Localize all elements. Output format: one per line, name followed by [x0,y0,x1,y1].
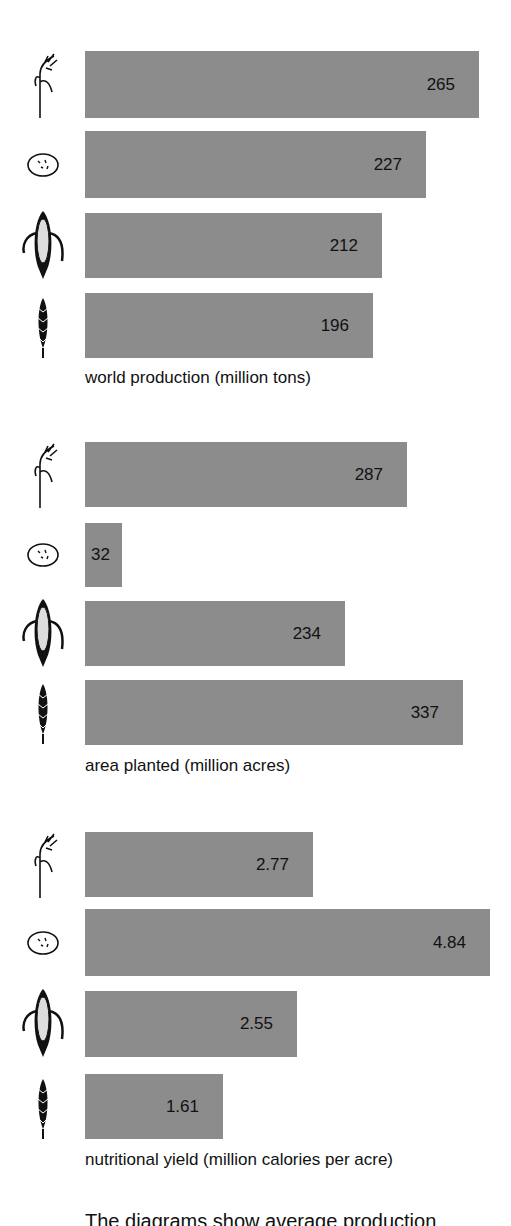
bar-maize: 2.55 [85,991,297,1057]
bar-oats: 265 [85,51,479,118]
bar-oats: 2.77 [85,832,313,897]
bar-wheat: 337 [85,680,463,745]
bar-value: 32 [91,545,110,565]
wheat-icon [18,1074,68,1141]
bar-value: 287 [355,465,383,485]
corn-icon [18,209,68,281]
potato-icon [18,131,68,198]
oat-icon [18,51,68,118]
bar-value: 2.77 [256,855,289,875]
wheat-icon [18,293,68,360]
chart-caption: world production (million tons) [85,368,311,388]
bar-potatoes: 227 [85,131,426,198]
bar-value: 196 [321,316,349,336]
bar-value: 227 [374,155,402,175]
bar-wheat: 196 [85,293,373,358]
bar-potatoes: 4.84 [85,909,490,976]
bar-wheat: 1.61 [85,1074,223,1139]
chart-caption: area planted (million acres) [85,756,290,776]
potato-icon [18,909,68,976]
bar-value: 337 [411,703,439,723]
bar-value: 1.61 [166,1097,199,1117]
bar-value: 265 [427,75,455,95]
corn-icon [18,597,68,669]
bar-value: 234 [293,624,321,644]
bar-value: 2.55 [240,1014,273,1034]
bar-value: 212 [330,236,358,256]
corn-icon [18,987,68,1059]
bar-maize: 212 [85,213,382,278]
bar-maize: 234 [85,601,345,666]
potato-icon [18,523,68,587]
footer-text-clipped: The diagrams show average production [85,1210,436,1226]
bar-potatoes: 32 [85,523,122,587]
bar-oats: 287 [85,442,407,507]
wheat-icon [18,680,68,745]
oat-icon [18,832,68,897]
oat-icon [18,442,68,507]
chart-caption: nutritional yield (million calories per … [85,1150,393,1170]
bar-value: 4.84 [433,933,466,953]
